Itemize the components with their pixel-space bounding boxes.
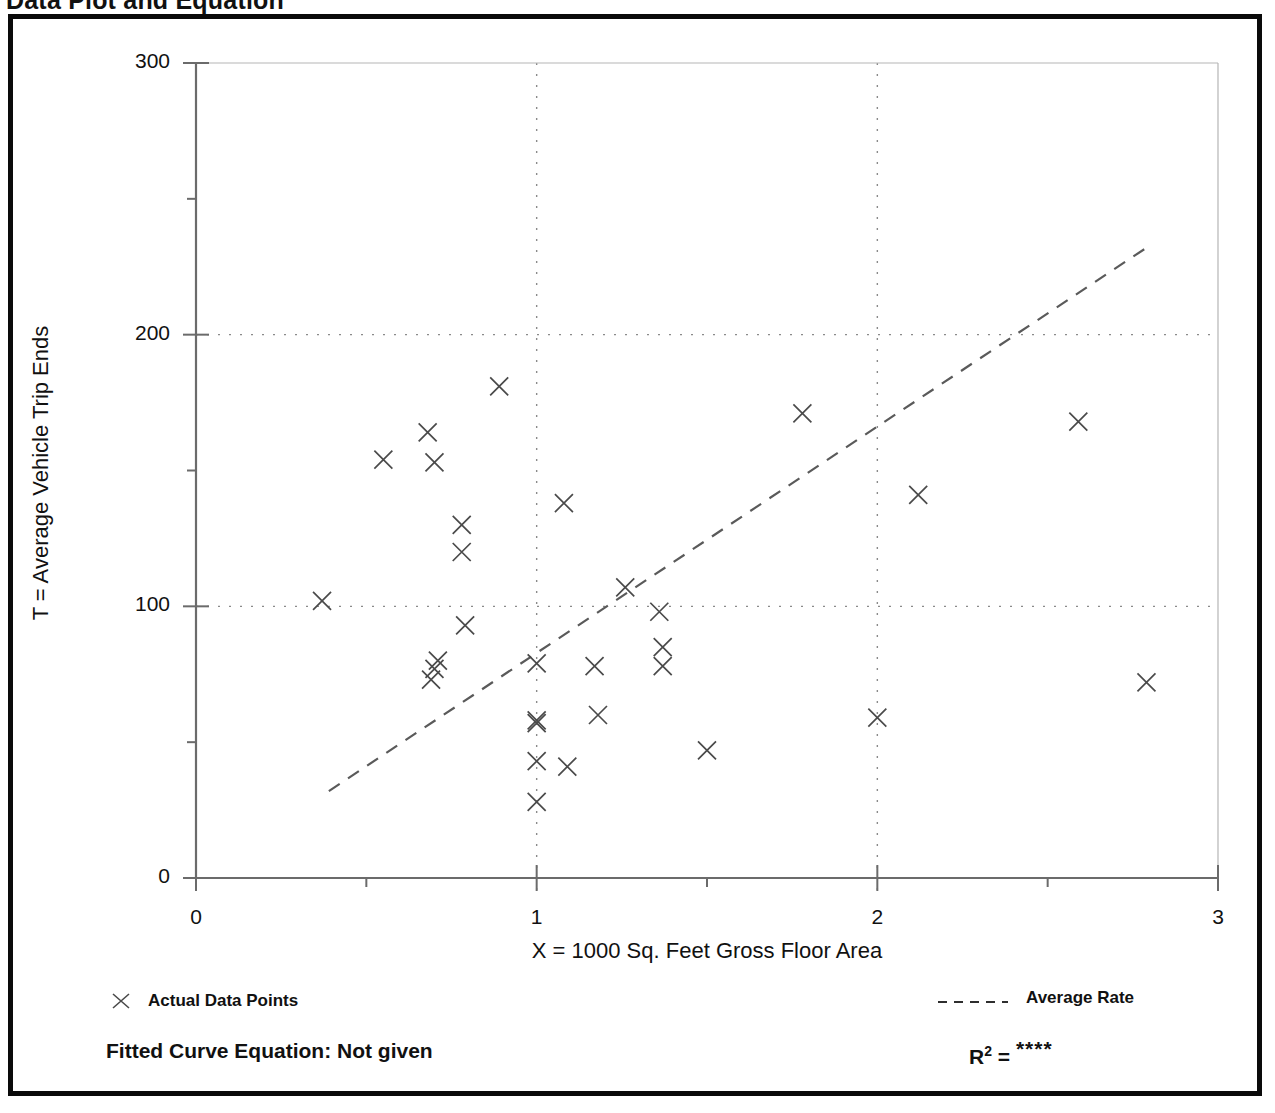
x-tick-label: 3 [1188,905,1248,929]
x-axis-title: X = 1000 Sq. Feet Gross Floor Area [196,938,1218,964]
x-tick-label: 2 [847,905,907,929]
data-point-x-marker [650,603,668,621]
r-squared-value: R2 = **** [969,1037,1053,1069]
y-tick-label: 100 [110,592,170,616]
fitted-curve-equation: Fitted Curve Equation: Not given [106,1039,433,1063]
data-point-x-marker [374,451,392,469]
dashed-line-icon [936,993,1010,1003]
data-point-x-marker [654,638,672,656]
gridlines [196,63,1218,894]
r2-stars: **** [1016,1037,1053,1060]
data-point-x-marker [698,741,716,759]
legend-item-average-rate: Average Rate [936,988,1134,1008]
r2-equals: = [992,1045,1016,1068]
y-tick-label: 200 [110,321,170,345]
data-point-x-marker [429,652,447,670]
trendline-segment [329,248,1147,791]
y-tick-label: 0 [110,864,170,888]
data-point-x-marker [558,758,576,776]
data-point-x-marker [1137,673,1155,691]
x-tick-label: 1 [507,905,567,929]
data-point-x-marker [313,592,331,610]
y-tick-label: 300 [110,49,170,73]
average-rate-trendline [329,248,1147,791]
data-point-x-marker [419,423,437,441]
data-point-x-marker [528,714,546,732]
data-point-x-marker [793,404,811,422]
data-point-markers [313,377,1155,811]
axis-ticks [183,63,1218,891]
legend-label-average-rate: Average Rate [1026,988,1134,1008]
data-point-x-marker [490,377,508,395]
data-point-x-marker [453,516,471,534]
data-point-x-marker [555,494,573,512]
r2-exponent: 2 [984,1043,992,1059]
data-point-x-marker [528,711,546,729]
data-point-x-marker [1069,413,1087,431]
axes [196,63,1218,878]
y-axis-title: T = Average Vehicle Trip Ends [28,243,54,703]
chart-plot-area: T = Average Vehicle Trip Ends X = 1000 S… [0,0,1275,1113]
r2-base: R [969,1045,984,1068]
data-point-x-marker [528,793,546,811]
data-point-x-marker [589,706,607,724]
data-point-x-marker [586,657,604,675]
legend-item-actual-data-points: Actual Data Points [108,990,298,1012]
data-point-x-marker [453,543,471,561]
legend-label-actual-data-points: Actual Data Points [148,991,298,1011]
x-tick-label: 0 [166,905,226,929]
data-point-x-marker [909,486,927,504]
data-point-x-marker [456,616,474,634]
data-point-x-marker [654,657,672,675]
x-marker-icon [108,990,134,1012]
data-point-x-marker [425,453,443,471]
